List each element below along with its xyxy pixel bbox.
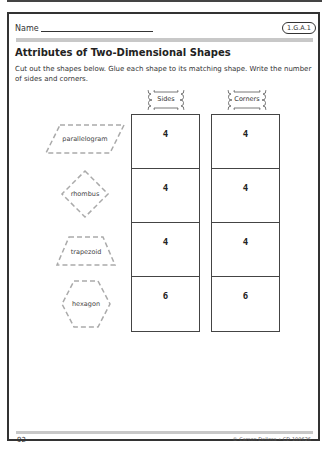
corners-cell-rhombus[interactable]: 4	[212, 169, 279, 223]
sides-header: Sides	[145, 90, 187, 110]
instructions: Cut out the shapes below. Glue each shap…	[15, 64, 315, 84]
shape-label: parallelogram	[44, 135, 126, 143]
sides-cell-trapezoid[interactable]: 4	[132, 223, 199, 277]
header-divider	[16, 38, 313, 42]
sides-cell-hexagon[interactable]: 6	[132, 277, 199, 331]
shape-label: hexagon	[60, 300, 112, 308]
trapezoid-cutout[interactable]: trapezoid	[55, 234, 117, 268]
corners-cell-trapezoid[interactable]: 4	[212, 223, 279, 277]
page-edge-line	[7, 0, 322, 2]
sides-cell-parallelogram[interactable]: 4	[132, 115, 199, 169]
hexagon-cutout[interactable]: hexagon	[60, 279, 112, 329]
page-number: 92	[17, 436, 26, 444]
parallelogram-cutout[interactable]: parallelogram	[44, 122, 126, 156]
name-field[interactable]: Name	[15, 24, 153, 33]
footer-divider	[16, 431, 313, 434]
corners-cell-parallelogram[interactable]: 4	[212, 115, 279, 169]
name-line[interactable]	[41, 31, 153, 32]
name-label: Name	[15, 24, 39, 33]
corners-header: Corners	[225, 90, 269, 110]
rhombus-cutout[interactable]: rhombus	[60, 169, 110, 219]
sides-column: 4 4 4 6	[131, 114, 200, 332]
page-title: Attributes of Two-Dimensional Shapes	[15, 47, 231, 58]
sides-cell-rhombus[interactable]: 4	[132, 169, 199, 223]
copyright: © Carson Dellosa • CD-109626	[233, 436, 311, 442]
corners-column: 4 4 4 6	[211, 114, 280, 332]
corners-cell-hexagon[interactable]: 6	[212, 277, 279, 331]
standard-badge: 1.G.A.1	[282, 22, 316, 34]
shape-label: trapezoid	[55, 248, 117, 256]
corners-label: Corners	[225, 95, 269, 103]
sides-label: Sides	[145, 95, 187, 103]
shape-label: rhombus	[60, 190, 110, 198]
